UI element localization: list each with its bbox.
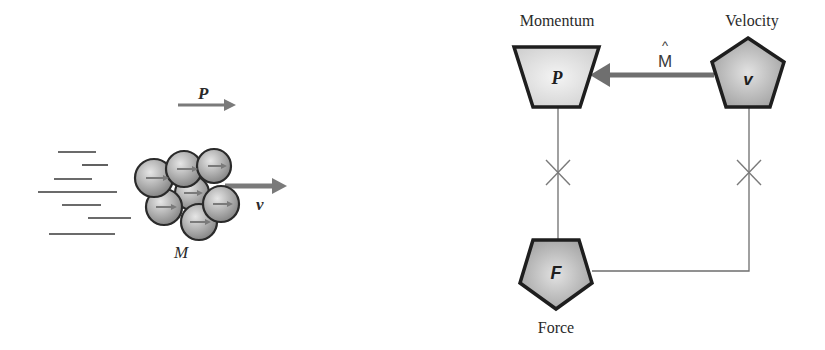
velocity-symbol: v xyxy=(256,195,264,214)
velocity-label: Velocity xyxy=(725,12,778,30)
transfer-arrow-label: M xyxy=(658,52,672,71)
momentum-node[interactable]: P xyxy=(514,47,599,107)
force-node[interactable]: F xyxy=(520,240,592,309)
force-node-symbol: F xyxy=(551,263,563,283)
momentum-symbol: P xyxy=(197,84,209,103)
velocity-node[interactable]: v xyxy=(712,38,784,107)
force-label: Force xyxy=(538,319,574,336)
diagram-canvas: P v M xyxy=(0,0,825,350)
velocity-node-symbol: v xyxy=(743,70,754,89)
motion-lines xyxy=(38,152,131,234)
moving-mass-illustration: P v M xyxy=(38,84,287,262)
velocity-force-connector xyxy=(592,108,749,271)
momentum-label: Momentum xyxy=(520,12,595,29)
momentum-arrow: P xyxy=(178,84,236,111)
transfer-arrow-hat: ^ xyxy=(662,38,669,53)
mass-symbol: M xyxy=(173,243,189,262)
transfer-arrow: M ^ xyxy=(590,38,714,87)
connector-lines xyxy=(558,107,749,271)
particle-cluster xyxy=(135,149,239,240)
bond-graph-diagram: Momentum Velocity Force M ^ P v F xyxy=(514,12,784,336)
momentum-node-symbol: P xyxy=(551,68,564,88)
